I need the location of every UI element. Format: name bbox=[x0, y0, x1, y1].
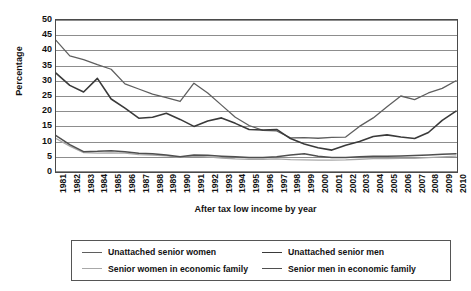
x-tick-label: 1995 bbox=[252, 174, 261, 193]
x-tick-label: 1983 bbox=[87, 174, 96, 193]
x-tick-label: 1999 bbox=[307, 174, 316, 193]
legend-entries: Unattached senior womenUnattached senior… bbox=[72, 241, 450, 280]
x-tick-label: 1984 bbox=[100, 174, 109, 193]
legend-label: Senior women in economic family bbox=[108, 264, 248, 274]
series-line bbox=[56, 136, 456, 158]
legend-label: Senior men in economic family bbox=[288, 264, 416, 274]
y-axis-title: Percentage bbox=[14, 26, 24, 116]
y-tick-label: 45 bbox=[42, 30, 52, 39]
legend-item: Senior women in economic family bbox=[82, 264, 262, 274]
x-tick-label: 1986 bbox=[128, 174, 137, 193]
x-tick-label: 2007 bbox=[418, 174, 427, 193]
x-tick-label: 1994 bbox=[238, 174, 247, 193]
x-tick-label: 2001 bbox=[335, 174, 344, 193]
chart-legend: Unattached senior womenUnattached senior… bbox=[71, 240, 451, 281]
legend-line-swatch-icon bbox=[82, 252, 102, 253]
y-tick-label: 5 bbox=[47, 151, 52, 160]
x-tick-label: 2005 bbox=[390, 174, 399, 193]
legend-line-swatch-icon bbox=[262, 252, 282, 253]
y-tick-label: 25 bbox=[42, 91, 52, 100]
y-tick-label: 15 bbox=[42, 121, 52, 130]
x-tick-label: 2006 bbox=[404, 174, 413, 193]
x-tick-label: 1992 bbox=[211, 174, 220, 193]
plot-area bbox=[55, 19, 458, 173]
x-tick-label: 1981 bbox=[59, 174, 68, 193]
y-tick-label: 30 bbox=[42, 75, 52, 84]
x-tick-label: 2003 bbox=[362, 174, 371, 193]
legend-label: Unattached senior men bbox=[288, 247, 384, 257]
x-tick-label: 1997 bbox=[280, 174, 289, 193]
x-tick-label: 1990 bbox=[183, 174, 192, 193]
x-tick-label: 1989 bbox=[169, 174, 178, 193]
x-tick-label: 1987 bbox=[142, 174, 151, 193]
y-tick-label: 0 bbox=[47, 167, 52, 176]
y-tick-label: 10 bbox=[42, 136, 52, 145]
legend-item: Unattached senior women bbox=[82, 247, 262, 257]
series-lines bbox=[56, 20, 457, 172]
legend-label: Unattached senior women bbox=[108, 247, 216, 257]
x-tick-label: 1993 bbox=[225, 174, 234, 193]
x-tick-label: 2008 bbox=[431, 174, 440, 193]
line-chart-figure: Percentage 05101520253035404550 19811982… bbox=[0, 0, 471, 291]
x-tick-label: 1988 bbox=[156, 174, 165, 193]
x-tick-label: 1991 bbox=[197, 174, 206, 193]
series-line bbox=[56, 40, 456, 138]
legend-line-swatch-icon bbox=[82, 268, 102, 269]
y-tick-label: 50 bbox=[42, 15, 52, 24]
x-tick-label: 2004 bbox=[376, 174, 385, 193]
series-line bbox=[56, 73, 456, 150]
y-tick-label: 20 bbox=[42, 106, 52, 115]
y-axis-tick-labels: 05101520253035404550 bbox=[28, 13, 52, 178]
y-tick-label: 40 bbox=[42, 45, 52, 54]
x-axis-tick-labels: 1981198219831984198519861987198819891990… bbox=[55, 174, 458, 204]
x-axis-title: After tax low income by year bbox=[55, 204, 456, 214]
x-tick-label: 1998 bbox=[293, 174, 302, 193]
x-tick-label: 2010 bbox=[459, 174, 468, 193]
x-tick-label: 1996 bbox=[266, 174, 275, 193]
x-tick-label: 1985 bbox=[114, 174, 123, 193]
legend-line-swatch-icon bbox=[262, 268, 282, 269]
legend-item: Senior men in economic family bbox=[262, 264, 442, 274]
x-tick-label: 2002 bbox=[349, 174, 358, 193]
x-tick-label: 2000 bbox=[321, 174, 330, 193]
y-tick-label: 35 bbox=[42, 60, 52, 69]
x-tick-label: 2009 bbox=[445, 174, 454, 193]
legend-item: Unattached senior men bbox=[262, 247, 442, 257]
x-tick-label: 1982 bbox=[73, 174, 82, 193]
